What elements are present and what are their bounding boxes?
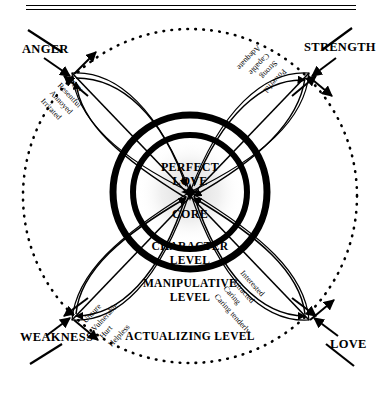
perfect-love-line-1: PERFECT [152,160,228,174]
core-label: CORE [160,207,220,222]
leader-weakness [30,344,62,364]
perfect-love-label: PERFECT LOVE [152,160,228,188]
love-arrow-c [310,300,334,320]
diagram-canvas: ANGER STRENGTH WEAKNESS LOVE PERFECT LOV… [0,0,382,394]
character-level-line-1: CHARACTER [145,240,235,254]
corner-label-strength: STRENGTH [304,40,376,55]
anger-arrow-a [44,58,70,76]
corner-label-weakness: WEAKNESS [20,330,93,345]
anger-arrow-c [74,52,96,74]
character-level-line-2: LEVEL [145,254,235,268]
corner-label-anger: ANGER [22,42,69,57]
strength-arrow-a [312,58,336,76]
perfect-love-line-2: LOVE [152,174,228,188]
corner-label-love: LOVE [330,337,367,352]
character-level-label: CHARACTER LEVEL [145,240,235,267]
actualizing-level-label: ACTUALIZING LEVEL [124,330,256,342]
love-arrow-a [314,318,338,336]
